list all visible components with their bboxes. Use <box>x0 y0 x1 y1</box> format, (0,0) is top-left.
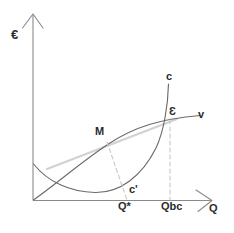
y-axis-label: € <box>11 28 18 41</box>
curve-c-prime-label: c' <box>129 184 138 195</box>
axes-group <box>23 14 213 212</box>
x-axis-label: Q <box>209 203 218 214</box>
curve-c-label: c <box>166 71 172 82</box>
guide-m-to-qstar <box>107 142 127 200</box>
x-tick-label-q-bc: Qbc <box>161 201 182 212</box>
x-tick-label-q-star: Q* <box>118 201 131 212</box>
curve-v <box>34 116 201 201</box>
curve-v-label: v <box>198 109 204 120</box>
curve-c <box>34 84 169 193</box>
economics-diagram: € c Ɛ v M c' Q* Qbc Q <box>0 0 234 233</box>
point-m-label: M <box>95 126 104 137</box>
point-epsilon-label: Ɛ <box>169 106 176 117</box>
